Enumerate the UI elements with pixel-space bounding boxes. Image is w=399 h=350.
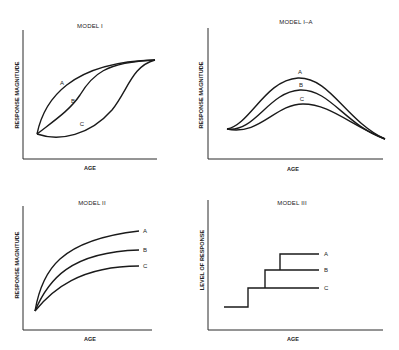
y-axis-label: LEVEL OF RESPONSE [199, 229, 205, 290]
panel-model-1: MODEL I RESPONSE MAGNITUDE AGE A B C [14, 23, 157, 171]
curve-c [224, 288, 319, 307]
curve-label-a: A [60, 80, 64, 86]
curve-c [37, 60, 155, 137]
panel-model-1a: MODEL I–A RESPONSE MAGNITUDE AGE A B C [198, 19, 385, 172]
panel-model-3: MODEL III LEVEL OF RESPONSE AGE A B C [199, 200, 383, 342]
curve-b [227, 90, 385, 139]
curve-label-b: B [143, 247, 147, 253]
curve-label-c: C [143, 263, 148, 269]
curve-a [280, 254, 319, 270]
curve-label-c: C [324, 285, 329, 291]
curve-label-a: A [298, 69, 302, 75]
curve-label-a: A [324, 251, 328, 257]
x-axis-label: AGE [287, 166, 299, 172]
curve-label-b: B [71, 98, 75, 104]
figure-models: MODEL I RESPONSE MAGNITUDE AGE A B C MOD… [0, 0, 399, 350]
curve-b [35, 250, 139, 311]
curve-label-c: C [300, 96, 305, 102]
curve-c [35, 266, 139, 311]
panel-model-2: MODEL II RESPONSE MAGNITUDE AGE A B C [14, 200, 152, 342]
curve-label-b: B [324, 267, 328, 273]
panel-title: MODEL I [77, 23, 103, 29]
panel-title: MODEL III [277, 200, 307, 206]
panel-title: MODEL I–A [279, 19, 313, 25]
curve-label-c: C [80, 121, 85, 127]
panel-title: MODEL II [78, 200, 106, 206]
curve-label-a: A [143, 228, 147, 234]
y-axis-label: RESPONSE MAGNITUDE [14, 61, 20, 128]
x-axis-label: AGE [84, 336, 96, 342]
x-axis-label: AGE [84, 165, 96, 171]
y-axis-label: RESPONSE MAGNITUDE [198, 61, 204, 128]
curve-a [35, 231, 139, 311]
y-axis-label: RESPONSE MAGNITUDE [14, 231, 20, 298]
curve-b [265, 270, 319, 288]
curve-label-b: B [299, 82, 303, 88]
x-axis-label: AGE [287, 336, 299, 342]
curve-a [227, 78, 385, 139]
